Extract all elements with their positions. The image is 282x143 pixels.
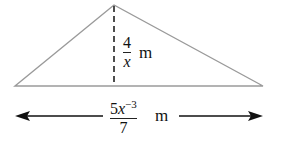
height-unit: m: [139, 44, 152, 61]
triangle-diagram: [0, 0, 282, 143]
base-fraction: 5x−3 7: [110, 99, 137, 136]
base-denominator: 7: [119, 120, 127, 136]
base-numerator: 5x−3: [110, 99, 137, 117]
height-fraction: 4 x: [123, 35, 131, 70]
height-numerator: 4: [123, 35, 131, 51]
base-unit: m: [155, 107, 168, 124]
height-denominator: x: [123, 54, 130, 70]
